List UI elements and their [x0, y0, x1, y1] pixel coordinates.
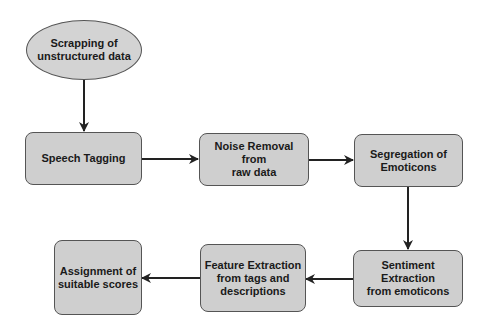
- node-label: Speech Tagging: [41, 152, 125, 165]
- node-label: Sentiment Extraction from emoticons: [367, 259, 450, 298]
- node-label: Assignment of suitable scores: [58, 265, 138, 291]
- node-label: Segregation of Emoticons: [370, 148, 447, 174]
- node-label: Noise Removal from raw data: [202, 140, 306, 179]
- node-speech-tagging: Speech Tagging: [25, 132, 142, 185]
- node-assignment: Assignment of suitable scores: [54, 240, 142, 315]
- node-feature-extraction: Feature Extraction from tags and descrip…: [200, 244, 306, 312]
- node-noise-removal: Noise Removal from raw data: [199, 133, 309, 186]
- node-label: Scrapping of unstructured data: [37, 37, 131, 63]
- node-scrapping: Scrapping of unstructured data: [26, 20, 142, 80]
- node-label: Feature Extraction from tags and descrip…: [205, 259, 302, 298]
- node-sentiment: Sentiment Extraction from emoticons: [353, 250, 463, 307]
- node-segregation: Segregation of Emoticons: [354, 134, 463, 187]
